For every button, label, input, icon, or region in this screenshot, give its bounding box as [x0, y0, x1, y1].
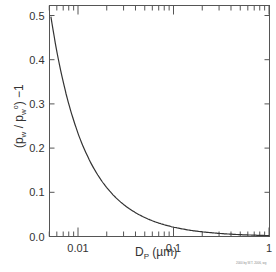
- x-axis-label: DP (µm): [135, 245, 177, 261]
- tick-labels: 0.00.10.20.30.40.50.010.11: [29, 10, 272, 254]
- svg-text:0.1: 0.1: [29, 186, 44, 198]
- chart-plot: 0.00.10.20.30.40.50.010.11: [0, 0, 276, 272]
- svg-text:0.5: 0.5: [29, 10, 44, 22]
- svg-text:1: 1: [266, 242, 272, 254]
- svg-text:0.0: 0.0: [29, 231, 44, 243]
- svg-text:0.3: 0.3: [29, 98, 44, 110]
- plot-frame: [50, 6, 270, 237]
- x-ticks: [49, 6, 269, 237]
- svg-text:0.01: 0.01: [67, 242, 88, 254]
- y-ticks: [50, 16, 270, 237]
- credit-text: 2000 by W.T. 2006, wg: [236, 261, 266, 265]
- data-line: [51, 17, 269, 236]
- y-axis-label: (pw / pwo) −1: [12, 56, 28, 176]
- svg-text:0.2: 0.2: [29, 142, 44, 154]
- svg-text:0.4: 0.4: [29, 54, 44, 66]
